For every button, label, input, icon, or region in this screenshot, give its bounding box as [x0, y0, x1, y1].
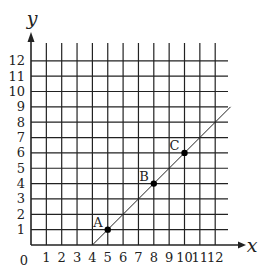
tick-labels: 0123456789101112123456789101112 [8, 53, 223, 268]
grid-lines [31, 43, 228, 245]
x-tick-label: 9 [165, 250, 173, 265]
y-tick-label: 8 [17, 115, 25, 130]
y-tick-label: 7 [17, 130, 25, 145]
y-axis-arrow-icon [28, 32, 35, 42]
y-tick-label: 11 [8, 69, 25, 84]
x-tick-label: 1 [42, 250, 50, 265]
point-label-a: A [92, 215, 103, 230]
point-a [105, 226, 111, 232]
y-tick-label: 5 [17, 161, 25, 176]
point-label-b: B [139, 169, 149, 184]
x-tick-label: 7 [134, 250, 142, 265]
axes: xy [26, 7, 258, 256]
x-tick-label: 11 [192, 250, 209, 265]
diagonal-line [92, 107, 230, 245]
x-tick-label: 4 [88, 250, 96, 265]
point-c [181, 150, 187, 156]
y-tick-label: 10 [8, 84, 25, 99]
x-tick-label: 3 [73, 250, 81, 265]
y-tick-label: 4 [17, 176, 25, 191]
y-tick-label: 1 [17, 222, 25, 237]
x-tick-label: 6 [119, 250, 127, 265]
x-tick-label: 2 [58, 250, 66, 265]
origin-label: 0 [20, 253, 28, 268]
point-b [151, 180, 157, 186]
y-axis-label: y [26, 7, 38, 29]
coordinate-grid-figure: xy 0123456789101112123456789101112 ABC [0, 0, 263, 268]
x-tick-label: 12 [207, 250, 224, 265]
y-tick-label: 2 [17, 207, 25, 222]
labeled-points: ABC [92, 138, 187, 233]
x-axis-label: x [247, 234, 258, 256]
x-tick-label: 5 [104, 250, 112, 265]
y-tick-label: 3 [17, 191, 25, 206]
y-tick-label: 12 [8, 53, 25, 68]
x-axis-arrow-icon [238, 242, 246, 249]
y-tick-label: 6 [17, 145, 25, 160]
y-tick-label: 9 [17, 99, 25, 114]
x-tick-label: 10 [176, 250, 193, 265]
point-label-c: C [170, 138, 180, 153]
line-y-equals-x-minus-4 [92, 107, 230, 245]
x-tick-label: 8 [150, 250, 158, 265]
